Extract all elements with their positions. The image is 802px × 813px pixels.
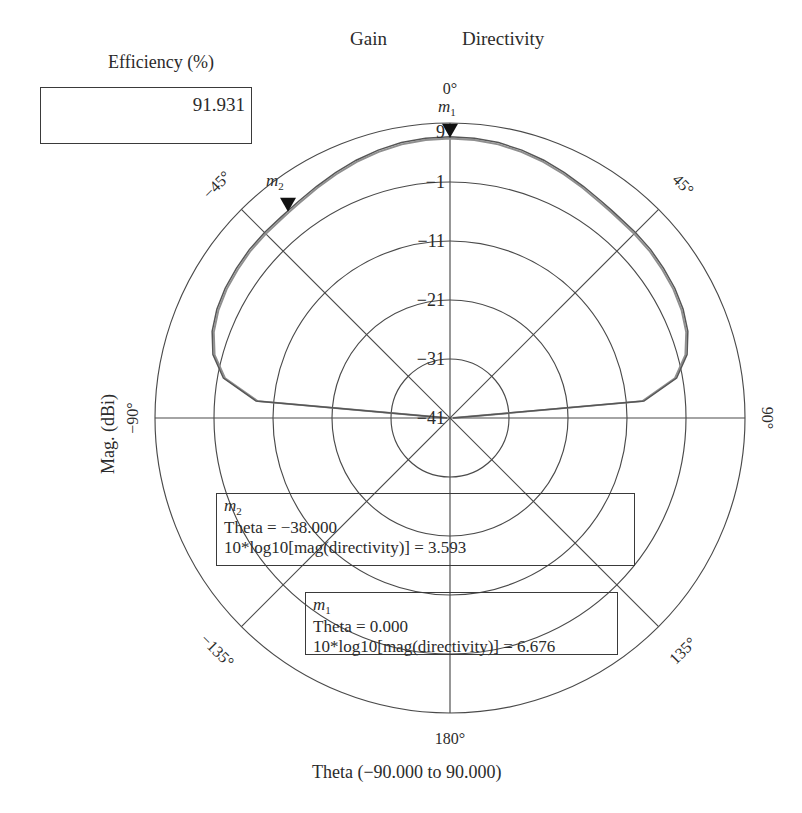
radial-tick-0: 9 — [436, 122, 447, 143]
marker-tag-m2: m2 — [224, 497, 628, 518]
polar-plot-figure: Gain Directivity Efficiency (%) 91.931 M… — [0, 0, 802, 813]
marker-value-m1: 10*log10[mag(directivity)] = 6.676 — [313, 637, 611, 657]
radial-tick-1: −1 — [426, 172, 447, 193]
angular-tick-0: 0° — [443, 80, 457, 98]
angular-tick-90: 90° — [758, 407, 776, 429]
marker-theta-m2: Theta = −38.000 — [224, 518, 628, 538]
polar-grid-and-traces — [0, 0, 802, 813]
marker-theta-m1: Theta = 0.000 — [313, 617, 611, 637]
marker-triangle-m2[interactable] — [280, 198, 296, 212]
marker-tag-m1: m1 — [313, 596, 611, 617]
angular-tick-neg90: −90° — [124, 402, 142, 433]
angular-tick-180: 180° — [435, 730, 465, 748]
marker-readout-m2[interactable]: m2 Theta = −38.000 10*log10[mag(directiv… — [216, 493, 635, 566]
marker-glyphs — [280, 124, 458, 212]
radial-tick-3: −21 — [417, 290, 447, 311]
radial-tick-2: −11 — [418, 231, 447, 252]
marker-label-m2: m2 — [266, 171, 284, 192]
radial-tick-5: −41 — [417, 408, 447, 429]
marker-readout-m1[interactable]: m1 Theta = 0.000 10*log10[mag(directivit… — [305, 592, 618, 655]
marker-label-m1: m1 — [438, 97, 456, 118]
marker-value-m2: 10*log10[mag(directivity)] = 3.593 — [224, 538, 628, 558]
radial-tick-4: −31 — [417, 349, 447, 370]
